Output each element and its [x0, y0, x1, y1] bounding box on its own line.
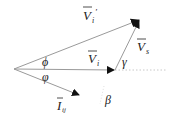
- svg-text:′: ′: [95, 7, 98, 17]
- svg-text:s: s: [146, 47, 149, 56]
- label-vi-prime: V i ′: [83, 7, 98, 25]
- angle-phi-upper: ϕ: [42, 55, 48, 69]
- label-vs: V s: [137, 39, 149, 56]
- label-vi: V i: [88, 51, 99, 68]
- beta-reference-line: [100, 86, 104, 104]
- angle-beta: β: [104, 93, 111, 107]
- svg-text:ij: ij: [62, 106, 66, 114]
- svg-text:i: i: [97, 59, 99, 68]
- angle-gamma: γ: [122, 55, 127, 69]
- svg-text:i: i: [92, 16, 94, 25]
- label-iij: I ij: [56, 98, 66, 114]
- phasor-diagram: V i ′ V i V s I ij ϕ φ γ β: [0, 0, 171, 119]
- vector-vi: [14, 69, 114, 70]
- angle-phi-lower: φ: [42, 70, 49, 84]
- vector-vi-prime: [14, 20, 139, 69]
